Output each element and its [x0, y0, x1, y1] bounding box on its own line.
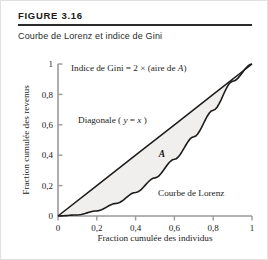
y-tick-label: 0,4 [42, 150, 54, 160]
x-tick-label: 0,8 [208, 223, 220, 233]
figure-number-label: FIGURE 3.16 [18, 10, 83, 21]
y-tick-label: 0 [49, 211, 54, 221]
y-tick-label: 1 [49, 59, 54, 69]
y-tick-label: 0,2 [42, 181, 53, 191]
diagonal-text-1: Diagonale ( [78, 115, 123, 125]
y-tick-label: 0,8 [42, 90, 54, 100]
diagonal-label-annotation: Diagonale ( y = x ) [78, 115, 147, 125]
area-a-label: A [158, 149, 165, 159]
diagonal-text-3: = [128, 115, 138, 125]
header-divider [18, 24, 252, 26]
gini-formula-text-3: ) [183, 63, 186, 73]
x-axis-title: Fraction cumulée des individus [97, 233, 213, 243]
lorenz-curve-chart: 00,20,40,60,81 00,20,40,60,81 Fraction c… [1, 45, 268, 260]
figure-caption: Courbe de Lorenz et indice de Gini [18, 31, 162, 41]
x-axis-tick-labels: 00,20,40,60,81 [56, 223, 255, 233]
y-axis-tick-labels: 00,20,40,60,81 [42, 59, 54, 221]
figure-card: FIGURE 3.16 Courbe de Lorenz et indice d… [0, 0, 268, 260]
x-tick-label: 0,6 [169, 223, 181, 233]
lorenz-curve-annotation: Courbe de Lorenz [158, 188, 224, 198]
x-tick-label: 0 [56, 223, 61, 233]
y-tick-label: 0,6 [42, 120, 54, 130]
gini-formula-text-1: Indice de Gini = 2 × (aire de [71, 63, 178, 73]
x-tick-label: 0,2 [91, 223, 102, 233]
diagonal-text-5: ) [141, 115, 146, 125]
gini-formula-annotation: Indice de Gini = 2 × (aire de A) [71, 63, 186, 73]
y-axis-title: Fraction cumulée des revenus [21, 85, 31, 195]
x-tick-label: 1 [250, 223, 255, 233]
x-tick-label: 0,4 [130, 223, 142, 233]
